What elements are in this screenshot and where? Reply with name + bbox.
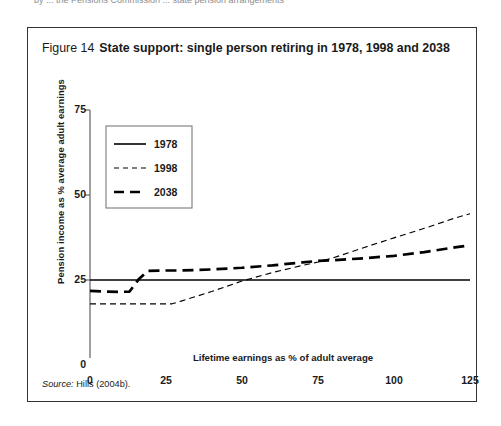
chart-area: Pension income as % average adult earnin… xyxy=(28,58,476,368)
y-axis-tick-labels: 0255075 xyxy=(62,58,86,328)
cropped-page-text-sliver: by ... the Pensions Commission ... state… xyxy=(0,0,501,6)
legend-label-1978: 1978 xyxy=(154,138,178,150)
legend-label-1998: 1998 xyxy=(154,162,178,174)
source-label: Source: xyxy=(42,379,74,389)
data-series-layer xyxy=(90,214,470,304)
x-tick-label: 125 xyxy=(450,374,490,386)
figure-caption: Figure 14State support: single person re… xyxy=(42,41,450,55)
x-tick-label: 100 xyxy=(374,374,414,386)
source-note: Source: Hills (2004b). xyxy=(42,379,130,389)
x-tick-label: 25 xyxy=(146,374,186,386)
series-line-2038 xyxy=(90,245,470,292)
x-tick-label: 50 xyxy=(222,374,262,386)
y-tick-label: 50 xyxy=(62,188,86,200)
x-axis-tick-labels: 0255075100125 xyxy=(28,58,476,78)
plot-svg: 1978 1998 2038 xyxy=(28,58,476,358)
chart-legend: 1978 1998 2038 xyxy=(106,126,192,208)
y-tick-label: 0 xyxy=(62,358,86,370)
y-tick-label: 25 xyxy=(62,273,86,285)
x-tick-label: 75 xyxy=(298,374,338,386)
series-line-1998 xyxy=(90,214,470,304)
figure-container: Figure 14State support: single person re… xyxy=(27,27,477,402)
figure-number: Figure 14 xyxy=(42,41,94,55)
cropped-page-text: by ... the Pensions Commission ... state… xyxy=(34,0,284,5)
legend-label-2038: 2038 xyxy=(154,186,178,198)
y-tick-label: 75 xyxy=(62,103,86,115)
source-text: Hills (2004b). xyxy=(76,379,130,389)
legend-box xyxy=(106,126,192,208)
page-title: State support: single person retiring in… xyxy=(99,41,450,55)
x-axis-title: Lifetime earnings as % of adult average xyxy=(88,352,478,363)
